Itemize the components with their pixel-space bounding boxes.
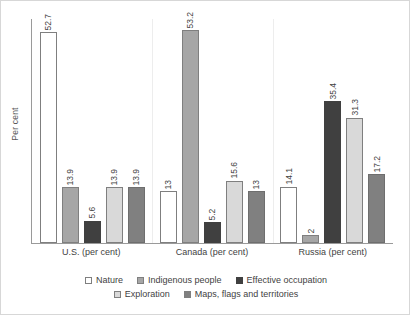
legend-swatch-icon [137,277,144,284]
bar-slot: 35.4 [324,19,341,243]
bar-value-label: 13 [164,180,173,189]
bar-value-label: 13 [252,180,261,189]
legend-item[interactable]: Maps, flags and territories [184,289,299,299]
bar-value-label: 13.9 [66,169,75,186]
legend-label: Maps, flags and territories [195,289,299,299]
legend-row: ExplorationMaps, flags and territories [1,287,410,301]
bar-slot: 5.6 [84,19,101,243]
bar-value-label: 13.9 [110,169,119,186]
bar[interactable]: 15.6 [226,181,243,243]
chart-legend: NatureIndigenous peopleEffective occupat… [1,273,410,301]
bar-slot: 13 [248,19,265,243]
legend-swatch-icon [184,291,191,298]
x-axis-category-labels: U.S. (per cent)Canada (per cent)Russia (… [31,247,393,257]
bar[interactable]: 13.9 [62,187,79,243]
x-axis-category-label: Russia (per cent) [272,247,393,257]
bar-value-label: 31.3 [350,99,359,116]
bar-group: 1353.25.215.613 [152,19,272,243]
bar-value-label: 13.9 [132,169,141,186]
bar-value-label: 2 [306,228,315,233]
x-axis-category-label: Canada (per cent) [152,247,273,257]
legend-label: Nature [96,275,123,285]
bar[interactable]: 13.9 [128,187,145,243]
x-axis-category-label: U.S. (per cent) [31,247,152,257]
bar-value-label: 17.2 [372,156,381,173]
legend-swatch-icon [85,277,92,284]
bar-value-label: 5.6 [88,207,97,219]
legend-item[interactable]: Exploration [114,289,170,299]
legend-label: Effective occupation [247,275,327,285]
bar-slot: 13.9 [106,19,123,243]
bar-slot: 13.9 [128,19,145,243]
bar[interactable]: 35.4 [324,101,341,243]
legend-swatch-icon [236,277,243,284]
legend-label: Exploration [125,289,170,299]
y-axis-title-text: Per cent [10,107,20,140]
bar-slot: 17.2 [368,19,385,243]
bar-value-label: 53.2 [186,12,195,29]
bar-slot: 2 [302,19,319,243]
bar[interactable]: 13.9 [106,187,123,243]
bar-group: 52.713.95.613.913.9 [32,19,152,243]
bar-slot: 13 [160,19,177,243]
bar-value-label: 35.4 [328,83,337,100]
y-axis-title: Per cent [7,1,23,247]
bar-slot: 15.6 [226,19,243,243]
bar-slot: 13.9 [62,19,79,243]
chart-figure: Per cent 52.713.95.613.913.91353.25.215.… [0,0,410,315]
plot-area: 52.713.95.613.913.91353.25.215.61314.123… [31,19,393,244]
bar[interactable]: 31.3 [346,118,363,243]
bar-slot: 5.2 [204,19,221,243]
legend-row: NatureIndigenous peopleEffective occupat… [1,273,410,287]
bar-value-label: 14.1 [284,168,293,185]
bar-value-label: 5.2 [208,208,217,220]
legend-item[interactable]: Nature [85,275,123,285]
bar[interactable]: 2 [302,235,319,243]
bar-value-label: 15.6 [230,162,239,179]
bar-slot: 52.7 [40,19,57,243]
bar[interactable]: 13 [160,191,177,243]
bar-slot: 31.3 [346,19,363,243]
bar[interactable]: 13 [248,191,265,243]
bar[interactable]: 5.6 [84,221,101,243]
bar[interactable]: 14.1 [280,187,297,243]
bar[interactable]: 5.2 [204,222,221,243]
bar-value-label: 52.7 [44,14,53,31]
bar-group: 14.1235.431.317.2 [273,19,393,243]
bar[interactable]: 17.2 [368,174,385,243]
bar[interactable]: 53.2 [182,30,199,243]
bar[interactable]: 52.7 [40,32,57,243]
legend-item[interactable]: Indigenous people [137,275,222,285]
legend-item[interactable]: Effective occupation [236,275,327,285]
bar-slot: 14.1 [280,19,297,243]
bar-groups: 52.713.95.613.913.91353.25.215.61314.123… [32,19,393,243]
bar-slot: 53.2 [182,19,199,243]
legend-swatch-icon [114,291,121,298]
legend-label: Indigenous people [148,275,222,285]
